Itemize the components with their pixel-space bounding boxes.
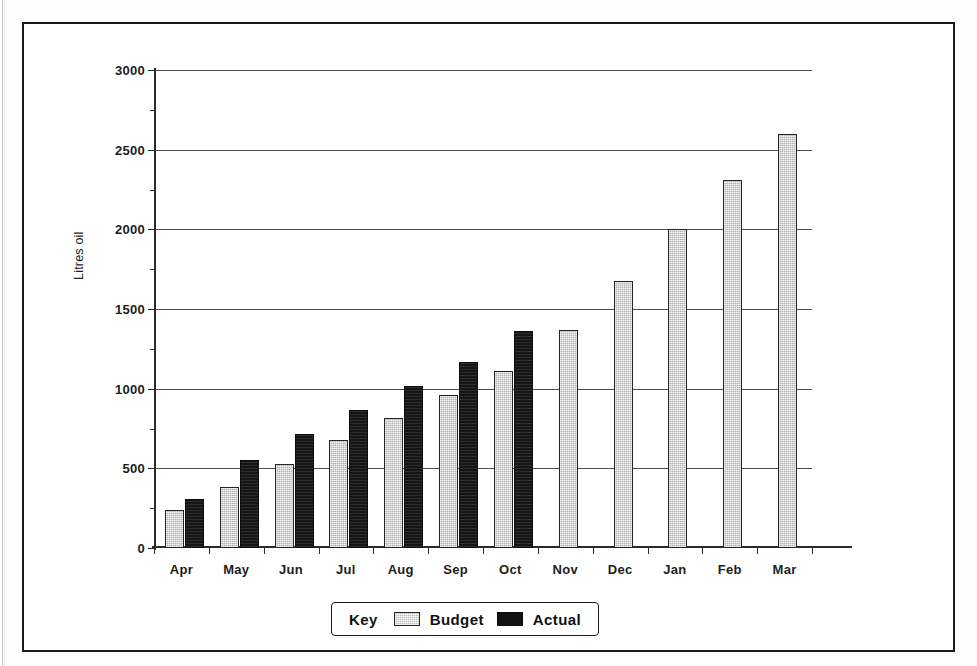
legend-entry-budget: Budget (394, 611, 484, 628)
x-axis-label-dec: Dec (608, 562, 633, 577)
chart-page: Litres oil 050010001500200025003000 AprM… (0, 0, 977, 666)
legend-key-label: Key (349, 611, 378, 628)
bar-budget-may (220, 487, 239, 548)
chart-legend: Key Budget Actual (331, 602, 599, 636)
y-axis-tick-label: 2000 (115, 222, 145, 237)
bar-budget-mar (778, 134, 797, 548)
bar-group (264, 70, 319, 548)
bar-group (593, 70, 648, 548)
legend-label-budget: Budget (430, 611, 484, 628)
x-axis-tick (757, 548, 758, 554)
legend-label-actual: Actual (533, 611, 581, 628)
plot-area: 050010001500200025003000 AprMayJunJulAug… (154, 70, 812, 548)
bar-budget-dec (614, 281, 633, 548)
scan-artifact-edge (2, 0, 3, 666)
bar-budget-apr (165, 510, 184, 548)
x-axis-label-aug: Aug (388, 562, 414, 577)
x-axis-label-apr: Apr (170, 562, 193, 577)
x-axis-tick-end (812, 548, 813, 554)
bar-budget-feb (723, 180, 742, 548)
x-axis-label-may: May (223, 562, 249, 577)
x-axis-tick (648, 548, 649, 554)
legend-swatch-budget-icon (394, 612, 420, 626)
bar-actual-oct (514, 331, 533, 548)
legend-swatch-actual-icon (497, 612, 523, 626)
y-axis-tick-label: 0 (137, 541, 145, 556)
bar-actual-jun (295, 434, 314, 548)
bar-group (702, 70, 757, 548)
x-axis-tick (538, 548, 539, 554)
bar-budget-oct (494, 371, 513, 548)
bar-group (428, 70, 483, 548)
bar-actual-aug (404, 386, 423, 548)
x-axis-tick (702, 548, 703, 554)
y-axis-tick-label: 1000 (115, 381, 145, 396)
x-axis-label-jan: Jan (663, 562, 686, 577)
x-axis-tick (593, 548, 594, 554)
x-axis-tick (209, 548, 210, 554)
x-axis-tick (264, 548, 265, 554)
x-axis-tick (483, 548, 484, 554)
bar-budget-aug (384, 418, 403, 548)
bar-actual-sep (459, 362, 478, 548)
bar-group (483, 70, 538, 548)
bar-budget-nov (559, 330, 578, 548)
y-axis-tick-label: 500 (122, 461, 145, 476)
bar-group (648, 70, 703, 548)
chart-frame: Litres oil 050010001500200025003000 AprM… (22, 22, 955, 652)
x-axis-tick (428, 548, 429, 554)
bar-budget-sep (439, 395, 458, 548)
x-axis-label-jul: Jul (336, 562, 356, 577)
y-axis-tick-label: 3000 (115, 63, 145, 78)
scan-artifact-edge-secondary (4, 0, 5, 666)
bar-group (319, 70, 374, 548)
x-axis-tick (154, 548, 155, 554)
bar-group (154, 70, 209, 548)
x-axis-tick (319, 548, 320, 554)
bar-actual-apr (185, 499, 204, 548)
bar-budget-jan (668, 229, 687, 548)
bar-actual-jul (349, 410, 368, 548)
x-axis-label-sep: Sep (443, 562, 468, 577)
bar-group (209, 70, 264, 548)
bar-group (373, 70, 428, 548)
y-axis-title: Litres oil (72, 231, 86, 280)
legend-entry-actual: Actual (497, 611, 581, 628)
y-axis-tick-label: 2500 (115, 142, 145, 157)
bar-group (538, 70, 593, 548)
x-axis-label-feb: Feb (718, 562, 742, 577)
x-axis-label-nov: Nov (553, 562, 578, 577)
x-axis-label-mar: Mar (773, 562, 797, 577)
x-axis-label-oct: Oct (499, 562, 522, 577)
x-axis-tick (373, 548, 374, 554)
bar-budget-jul (329, 440, 348, 548)
x-axis-label-jun: Jun (279, 562, 303, 577)
bar-budget-jun (275, 464, 294, 548)
y-axis-tick-label: 1500 (115, 302, 145, 317)
bar-actual-may (240, 460, 259, 548)
bar-group (757, 70, 812, 548)
